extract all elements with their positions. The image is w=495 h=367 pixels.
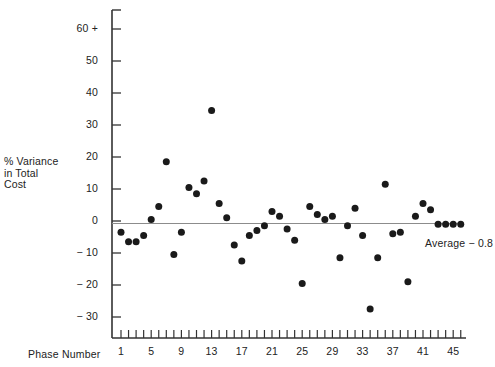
scatter-chart: % Variance in Total Cost 60 +50403020100… <box>0 0 495 367</box>
data-point <box>193 190 200 197</box>
y-axis-tick-label: 0 <box>58 214 98 226</box>
data-point <box>404 278 411 285</box>
data-point <box>306 203 313 210</box>
x-axis-tick-label: 41 <box>412 345 434 357</box>
data-point <box>170 251 177 258</box>
data-point <box>397 229 404 236</box>
y-axis-tick-label: − 30 <box>58 310 98 322</box>
x-axis-tick-label: 13 <box>201 345 223 357</box>
x-axis-tick-label: 17 <box>231 345 253 357</box>
data-point <box>367 306 374 313</box>
x-axis-tick-label: 25 <box>291 345 313 357</box>
data-point <box>412 213 419 220</box>
data-point <box>299 280 306 287</box>
data-point <box>427 206 434 213</box>
data-point <box>374 254 381 261</box>
data-point <box>321 216 328 223</box>
data-point <box>359 232 366 239</box>
data-point <box>457 221 464 228</box>
data-point <box>208 107 215 114</box>
data-point <box>420 200 427 207</box>
data-point <box>185 184 192 191</box>
y-axis-tick-label: − 10 <box>58 246 98 258</box>
data-point <box>276 213 283 220</box>
y-axis-tick-label: 30 <box>58 118 98 130</box>
data-point <box>352 205 359 212</box>
x-axis-tick-label: 37 <box>382 345 404 357</box>
x-axis-tick-label: 33 <box>352 345 374 357</box>
data-point <box>133 238 140 245</box>
data-point <box>382 181 389 188</box>
x-axis-tick-label: 9 <box>170 345 192 357</box>
x-axis-tick-label: 21 <box>261 345 283 357</box>
data-point <box>435 221 442 228</box>
data-point <box>148 216 155 223</box>
data-points-group <box>118 107 465 312</box>
data-point <box>284 226 291 233</box>
data-point <box>261 222 268 229</box>
x-axis-tick-label: 45 <box>442 345 464 357</box>
y-axis-tick-label: 10 <box>58 182 98 194</box>
average-annotation: Average − 0.8 <box>425 237 493 249</box>
data-point <box>269 208 276 215</box>
x-axis-tick-label: 5 <box>140 345 162 357</box>
data-point <box>253 227 260 234</box>
data-point <box>238 258 245 265</box>
footer-cropped-text <box>4 358 184 367</box>
data-point <box>344 222 351 229</box>
data-point <box>178 229 185 236</box>
data-point <box>223 214 230 221</box>
data-point <box>216 200 223 207</box>
y-axis-tick-label: 50 <box>58 54 98 66</box>
data-point <box>314 211 321 218</box>
data-point <box>389 230 396 237</box>
data-point <box>329 213 336 220</box>
data-point <box>155 203 162 210</box>
x-axis-tick-label: 29 <box>321 345 343 357</box>
y-axis-tick-label: 40 <box>58 86 98 98</box>
y-axis-tick-label: 60 + <box>58 22 98 34</box>
data-point <box>118 229 125 236</box>
data-point <box>231 242 238 249</box>
data-point <box>291 237 298 244</box>
axes-group <box>112 10 466 338</box>
data-point <box>140 232 147 239</box>
data-point <box>336 254 343 261</box>
y-axis-tick-label: 20 <box>58 150 98 162</box>
data-point <box>201 178 208 185</box>
data-point <box>163 158 170 165</box>
y-axis-tick-label: − 20 <box>58 278 98 290</box>
data-point <box>442 221 449 228</box>
data-point <box>246 232 253 239</box>
x-axis-tick-label: 1 <box>110 345 132 357</box>
data-point <box>450 221 457 228</box>
data-point <box>125 238 132 245</box>
